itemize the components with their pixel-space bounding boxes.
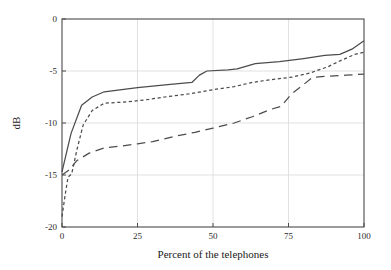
x-tick-label: 75 (284, 231, 294, 241)
x-tick-label: 0 (60, 231, 65, 241)
y-tick-label: -15 (45, 170, 57, 180)
chart-figure: 0255075100 0-5-10-15-20 Percent of the t… (0, 0, 391, 270)
gridlines (62, 19, 364, 227)
x-tick-labels: 0255075100 (60, 231, 372, 241)
y-tick-label: -5 (50, 66, 58, 76)
line-chart: 0255075100 0-5-10-15-20 Percent of the t… (0, 0, 391, 270)
y-tick-label: -10 (45, 118, 57, 128)
y-axis-title: dB (10, 117, 22, 130)
x-tick-label: 50 (209, 231, 219, 241)
y-tick-label: -20 (45, 222, 57, 232)
x-tick-label: 100 (357, 231, 371, 241)
y-tick-label: 0 (53, 14, 58, 24)
x-tick-label: 25 (133, 231, 143, 241)
y-tick-labels: 0-5-10-15-20 (45, 14, 58, 232)
x-axis-title: Percent of the telephones (158, 248, 269, 260)
